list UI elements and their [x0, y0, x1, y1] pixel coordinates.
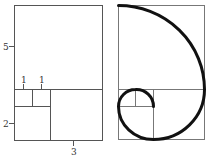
label-5: 5 — [3, 42, 9, 52]
label-1a: 1 — [21, 75, 27, 85]
outer-rectangle-right — [119, 6, 205, 140]
label-2: 2 — [3, 119, 9, 129]
label-1b: 1 — [39, 75, 45, 85]
label-3: 3 — [71, 147, 77, 157]
fibonacci-diagram: 5 1 1 2 3 — [0, 0, 210, 163]
right-panel — [119, 6, 205, 140]
golden-spiral — [119, 6, 205, 140]
outer-rectangle — [15, 6, 103, 141]
